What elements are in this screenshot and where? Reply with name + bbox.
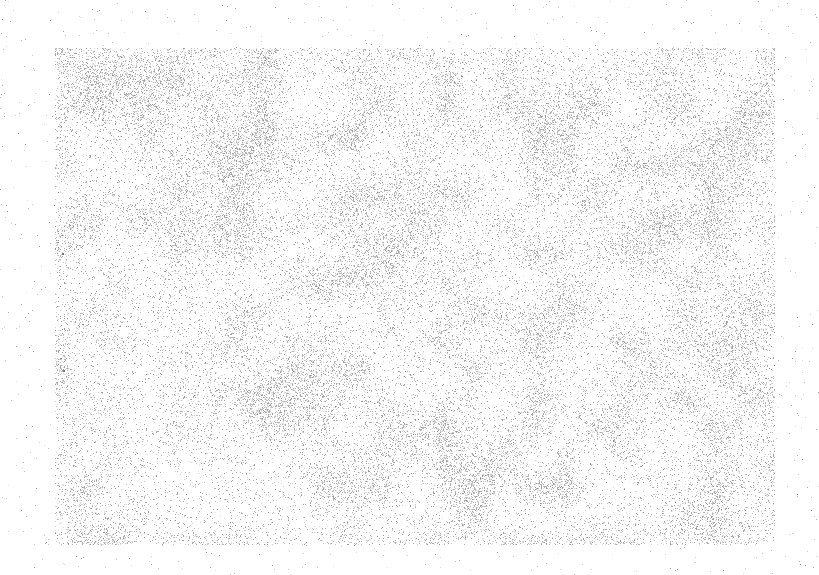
noise-texture bbox=[0, 0, 819, 575]
